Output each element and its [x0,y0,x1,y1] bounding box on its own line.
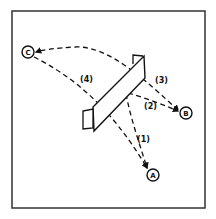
node-a-label: A [150,172,156,180]
panel [83,55,145,131]
node-a: A [147,169,159,181]
trajectory-diagram: (4) (3) (2) (1) C B A [0,0,216,219]
panel-face [93,56,145,131]
node-b-label: B [183,110,188,118]
label-path-1: (1) [137,135,150,144]
node-c: C [22,46,34,58]
panel-tab-left [83,109,93,129]
node-c-label: C [25,49,30,57]
label-path-2: (2) [144,102,157,111]
label-path-4: (4) [80,75,93,84]
label-path-3: (3) [155,76,168,85]
node-b: B [180,107,192,119]
